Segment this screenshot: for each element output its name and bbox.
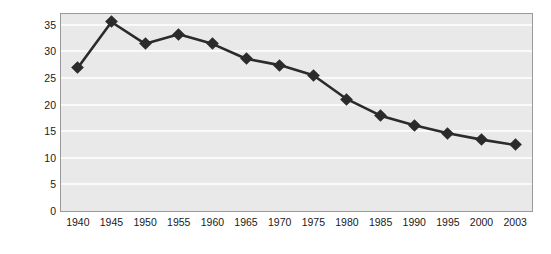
- plot-area: [60, 13, 533, 212]
- y-tick-label-25: 25: [30, 73, 56, 84]
- y-axis-tick-labels: 05101520253035: [28, 0, 56, 254]
- x-tick-label-2003: 2003: [490, 217, 540, 228]
- series-line: [61, 14, 532, 211]
- y-tick-label-15: 15: [30, 126, 56, 137]
- y-tick-label-30: 30: [30, 46, 56, 57]
- y-tick-label-20: 20: [30, 100, 56, 111]
- y-tick-label-35: 35: [30, 20, 56, 31]
- chart-container: Percentage of abor force 05101520253035 …: [0, 0, 551, 254]
- y-tick-label-0: 0: [30, 206, 56, 217]
- y-tick-label-10: 10: [30, 153, 56, 164]
- y-tick-label-5: 5: [30, 179, 56, 190]
